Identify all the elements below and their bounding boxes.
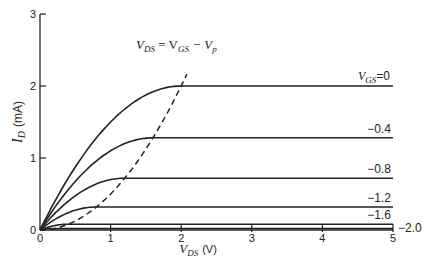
curve-vgs-neg0.4: [40, 138, 393, 230]
curve-vgs-0: [40, 86, 393, 230]
fet-characteristic-chart: 0123012345 −0.4−0.8−1.2−1.6−2.0 VDS = VG…: [0, 0, 432, 267]
x-tick-label: 4: [319, 232, 325, 244]
curves: [40, 86, 393, 230]
curve-label: −1.2: [367, 191, 391, 205]
curve-label: −0.8: [367, 162, 391, 176]
curve-vgs-neg0.8: [40, 178, 393, 230]
x-tick-label: 1: [108, 232, 114, 244]
svg-text:ID(mA): ID(mA): [10, 101, 27, 144]
curve-label: −0.4: [367, 122, 391, 136]
y-tick-label: 1: [30, 152, 36, 164]
x-tick-label: 3: [249, 232, 255, 244]
y-axis-title: ID(mA): [10, 101, 27, 144]
curve-label: −2.0: [398, 221, 422, 235]
curve-label: −1.6: [367, 208, 391, 222]
x-tick-label: 0: [37, 232, 43, 244]
y-tick-label: 0: [30, 224, 36, 236]
curve-vgs-neg1.2: [40, 207, 393, 230]
y-tick-label: 3: [30, 8, 36, 20]
locus-label: VDS = VGS − Vp: [136, 37, 217, 54]
x-axis-title: VDS(V): [179, 241, 217, 258]
x-tick-label: 5: [390, 232, 396, 244]
vgs-zero-label: VGS=0: [358, 69, 390, 85]
y-tick-label: 2: [30, 80, 36, 92]
